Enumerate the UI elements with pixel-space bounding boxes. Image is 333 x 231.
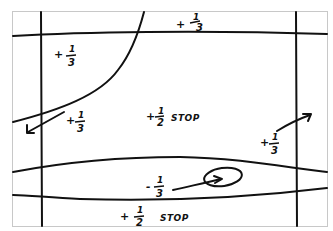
svg-text:+: + <box>146 110 155 123</box>
diagram-frame <box>13 12 328 227</box>
svg-text:2: 2 <box>157 117 164 128</box>
svg-text:+: + <box>66 114 75 127</box>
svg-text:1: 1 <box>78 110 84 120</box>
svg-text:1: 1 <box>157 175 163 185</box>
svg-text:3: 3 <box>156 188 163 199</box>
svg-text:+: + <box>54 48 63 61</box>
svg-text:3: 3 <box>68 57 75 68</box>
svg-text:3: 3 <box>196 22 203 33</box>
svg-text:1: 1 <box>69 44 75 54</box>
svg-text:1: 1 <box>137 205 143 215</box>
svg-text:3: 3 <box>77 123 84 134</box>
svg-text:1: 1 <box>158 106 164 116</box>
svg-text:3: 3 <box>271 145 278 156</box>
svg-text:1: 1 <box>193 12 199 22</box>
svg-text:STOP: STOP <box>171 113 200 123</box>
svg-text:+: + <box>260 136 269 149</box>
svg-text:+: + <box>176 18 185 31</box>
svg-text:STOP: STOP <box>160 213 189 223</box>
svg-text:2: 2 <box>136 217 143 228</box>
svg-text:+: + <box>120 210 129 223</box>
right-vertical-line <box>296 12 297 226</box>
left-vertical-line <box>41 12 42 226</box>
svg-text:-: - <box>146 180 151 193</box>
svg-text:1: 1 <box>272 132 278 142</box>
exposure-zone-diagram: + 1 3 + 1 3 + 1 3 + 1 2 STOP + 1 3 - 1 3… <box>0 0 333 231</box>
